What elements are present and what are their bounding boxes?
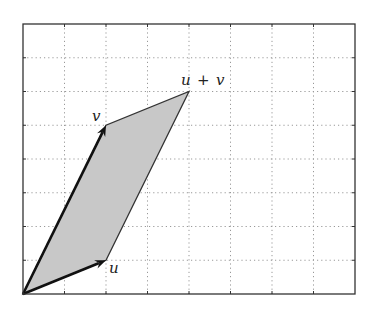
label-u: u bbox=[109, 259, 119, 277]
label-sum-v: v bbox=[216, 71, 225, 89]
label-sum-u: u bbox=[181, 71, 191, 89]
label-u-plus-v: u + v bbox=[181, 71, 225, 89]
label-sum-plus: + bbox=[197, 71, 210, 89]
label-v: v bbox=[92, 107, 101, 125]
vector-diagram: v u u + v bbox=[0, 0, 370, 314]
